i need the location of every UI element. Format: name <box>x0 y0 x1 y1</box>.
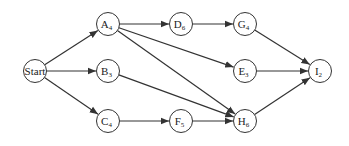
node-g: G4 <box>234 13 257 36</box>
edge-g-to-i <box>255 30 310 65</box>
node-d: D6 <box>170 13 193 36</box>
edge-start-to-a <box>45 31 98 65</box>
node-start: Start <box>24 60 47 83</box>
edges <box>45 24 311 121</box>
node-f: F5 <box>170 110 193 133</box>
edge-h-to-i <box>255 78 310 115</box>
network-diagram: StartA4B3C4D6E3F5G4H6I2 <box>0 0 349 146</box>
node-a: A4 <box>97 13 120 36</box>
node-c: C4 <box>97 110 120 133</box>
node-b: B3 <box>97 60 120 83</box>
node-h: H6 <box>234 110 257 133</box>
edge-start-to-c <box>45 78 99 115</box>
edge-a-to-h <box>117 31 235 115</box>
node-e: E3 <box>234 60 257 83</box>
node-i: I2 <box>309 60 332 83</box>
node-label: Start <box>25 65 46 77</box>
